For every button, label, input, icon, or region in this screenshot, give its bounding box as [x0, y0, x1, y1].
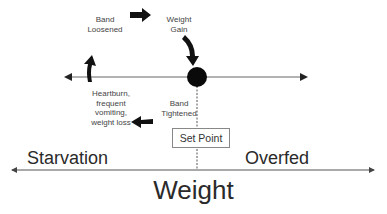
- arrow-right-icon: [130, 8, 151, 22]
- region-label-starvation: Starvation: [27, 148, 108, 169]
- axis-title-weight: Weight: [0, 175, 387, 206]
- label-band-tightened: Band Tightened: [154, 99, 204, 118]
- label-band-loosened: Band Loosened: [80, 15, 130, 34]
- arrow-down-curved-icon: [182, 35, 199, 66]
- set-point-box: Set Point: [172, 128, 230, 148]
- arrow-up-curved-icon: [84, 55, 96, 82]
- label-weight-gain: Weight Gain: [154, 15, 204, 34]
- set-point-dot: [187, 67, 207, 87]
- label-heartburn-vomiting-weight-loss: Heartburn, frequent vomiting, weight los…: [82, 89, 140, 127]
- region-label-overfed: Overfed: [245, 148, 309, 169]
